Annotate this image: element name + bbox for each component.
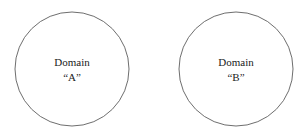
domain-a-label: Domain	[54, 56, 90, 68]
domain-diagram: Domain “A” Domain “B”	[0, 0, 308, 136]
domain-b-label: Domain	[218, 56, 254, 68]
domain-b-node: Domain “B”	[179, 12, 293, 126]
domain-b-circle	[179, 12, 293, 126]
domain-a-node: Domain “A”	[15, 12, 129, 126]
domain-a-id: “A”	[63, 71, 81, 83]
domain-a-circle	[15, 12, 129, 126]
domain-b-id: “B”	[227, 71, 244, 83]
